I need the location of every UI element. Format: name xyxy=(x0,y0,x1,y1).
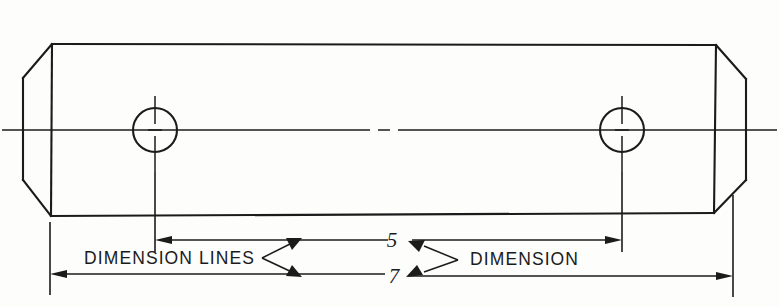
dimension-7-arrowhead-left xyxy=(50,270,67,278)
dimension-leader-upper xyxy=(424,246,458,260)
plate-chamfer-top-right xyxy=(716,45,746,79)
plate-chamfer-bottom-right xyxy=(714,180,746,213)
plate-chamfer-top-left xyxy=(23,44,52,78)
dimension-lines-leader-group xyxy=(262,238,302,277)
dimension-5-arrowhead-left xyxy=(155,236,172,244)
plate-bottom-edge xyxy=(51,213,714,216)
dimension-leader-upper-arrowhead xyxy=(408,240,425,252)
left-hole-group xyxy=(133,96,177,172)
dimension-note-label: DIMENSION xyxy=(470,249,579,269)
dimension-leader-lower xyxy=(424,260,458,272)
dimension-leader-lower-arrowhead xyxy=(406,265,423,277)
dimension-5-value: 5 xyxy=(387,228,398,252)
technical-drawing-canvas: 5 7 DIMENSION LINES xyxy=(0,0,779,307)
engineering-drawing-svg: 5 7 DIMENSION LINES xyxy=(0,0,779,307)
dimension-leader-group xyxy=(406,240,458,277)
dimension-5-arrowhead-right xyxy=(605,236,622,244)
plate-right-fold-edge xyxy=(714,45,716,213)
plate-chamfer-bottom-left xyxy=(23,180,51,216)
right-hole-group xyxy=(600,96,644,172)
dimension-lines-note-label: DIMENSION LINES xyxy=(84,248,255,268)
dimension-7-value: 7 xyxy=(389,264,401,288)
dimension-7-arrowhead-right xyxy=(716,272,733,280)
plate-top-edge xyxy=(52,44,716,45)
